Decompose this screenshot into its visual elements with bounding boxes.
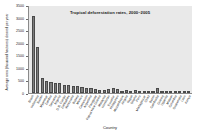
bar[interactable] (138, 91, 141, 93)
chart-figure: 0500100015002000250030003500 Average are… (0, 0, 197, 138)
bar[interactable] (63, 85, 66, 93)
bar[interactable] (160, 91, 163, 93)
bar[interactable] (174, 91, 177, 93)
plot-area (28, 6, 192, 94)
bar-series (29, 6, 192, 93)
y-axis-tick-label: 2000 (16, 42, 24, 46)
bar[interactable] (89, 88, 92, 93)
bar[interactable] (67, 85, 70, 93)
bar[interactable] (107, 89, 110, 93)
bar[interactable] (103, 90, 106, 93)
chart-title: Tropical deforestation rates, 2000–2005 (28, 10, 192, 15)
bar[interactable] (178, 91, 181, 93)
bar[interactable] (94, 89, 97, 93)
bar[interactable] (134, 90, 137, 93)
y-axis-tick-label: 0 (22, 92, 24, 96)
y-axis-title: Average area (thousand hectares) cleared… (5, 6, 9, 98)
bar[interactable] (72, 86, 75, 93)
bar[interactable] (32, 16, 35, 93)
bar[interactable] (120, 91, 123, 93)
bar[interactable] (36, 47, 39, 94)
bar[interactable] (169, 91, 172, 93)
bar[interactable] (76, 86, 79, 93)
y-axis-tick-label: 3000 (16, 17, 24, 21)
bar[interactable] (156, 88, 159, 93)
bar[interactable] (58, 83, 61, 93)
bar[interactable] (49, 82, 52, 93)
bar[interactable] (151, 91, 154, 93)
x-axis-title: Country (28, 125, 192, 130)
bar[interactable] (112, 88, 115, 93)
bar[interactable] (54, 83, 57, 93)
bar[interactable] (143, 91, 146, 93)
bar[interactable] (125, 90, 128, 93)
bar[interactable] (41, 78, 44, 93)
x-axis-tick-slot: Kenya (186, 95, 190, 125)
bar[interactable] (147, 91, 150, 93)
bar[interactable] (80, 87, 83, 93)
bar[interactable] (45, 81, 48, 93)
y-axis-tick-label: 3500 (16, 4, 24, 8)
y-axis-tick-label: 500 (18, 79, 24, 83)
bar[interactable] (165, 91, 168, 93)
bar[interactable] (129, 91, 132, 93)
y-axis-tick-label: 1500 (16, 54, 24, 58)
bar[interactable] (183, 91, 186, 93)
y-axis-tick-label: 1000 (16, 67, 24, 71)
x-axis-tick-label: Kenya (184, 95, 191, 104)
bar[interactable] (187, 91, 190, 93)
bar[interactable] (116, 89, 119, 93)
bar[interactable] (98, 90, 101, 93)
bar[interactable] (85, 88, 88, 93)
x-axis-tick-labels: BrazilIndonesiaSudanMyanmarZambiaTanzani… (28, 95, 192, 125)
y-axis-tick-label: 2500 (16, 29, 24, 33)
bar-slot (186, 6, 190, 93)
